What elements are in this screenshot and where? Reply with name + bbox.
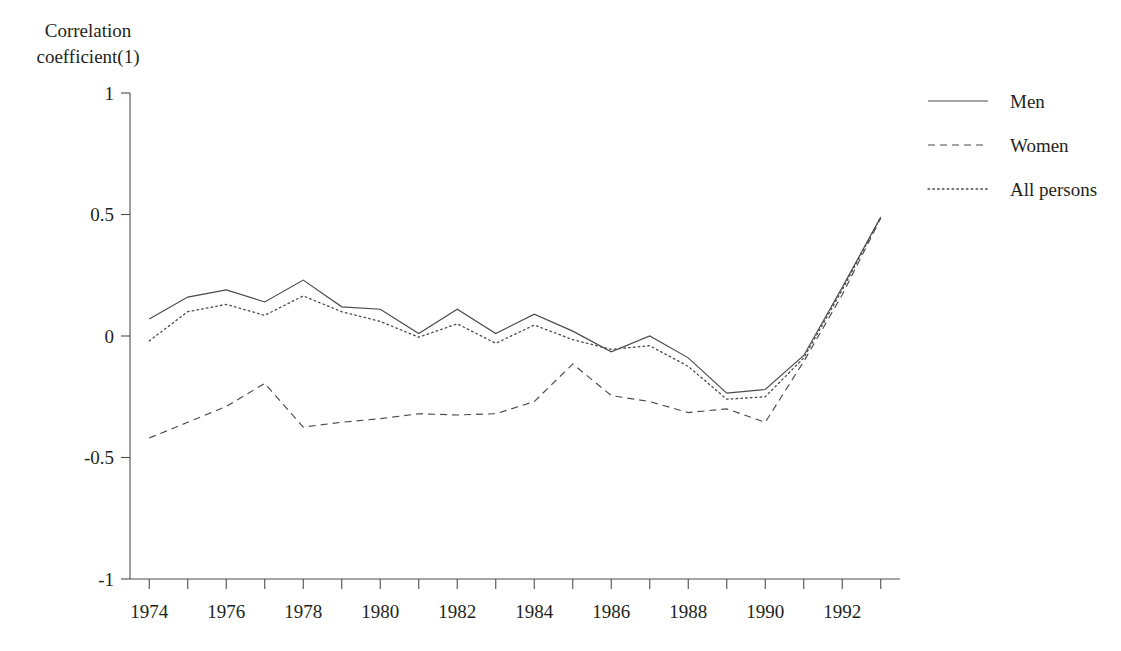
x-tick-marks: [149, 579, 881, 589]
y-tick-label: -0.5: [84, 447, 114, 468]
chart-legend: MenWomenAll persons: [928, 91, 1097, 200]
legend-label-women: Women: [1010, 135, 1069, 156]
x-tick-labels: 1974197619781980198219841986198819901992: [130, 601, 861, 622]
x-tick-label: 1980: [361, 601, 399, 622]
chart-canvas: 10.50-0.5-1 1974197619781980198219841986…: [0, 0, 1121, 651]
x-tick-label: 1986: [592, 601, 630, 622]
x-tick-label: 1984: [515, 601, 554, 622]
series-line-women: [149, 218, 881, 438]
x-tick-label: 1992: [823, 601, 861, 622]
series-line-men: [149, 217, 881, 393]
y-tick-label: -1: [98, 569, 114, 590]
legend-label-men: Men: [1010, 91, 1045, 112]
series-line-all-persons: [149, 217, 881, 399]
x-tick-label: 1988: [669, 601, 707, 622]
y-tick-label: 1: [105, 83, 115, 104]
x-tick-label: 1978: [284, 601, 322, 622]
x-tick-label: 1974: [130, 601, 169, 622]
y-tick-marks: [121, 93, 130, 579]
y-tick-label: 0: [105, 326, 115, 347]
x-tick-label: 1982: [438, 601, 476, 622]
x-tick-label: 1990: [746, 601, 784, 622]
y-tick-labels: 10.50-0.5-1: [84, 83, 114, 590]
plot-series: [149, 217, 881, 438]
y-tick-label: 0.5: [90, 204, 114, 225]
chart-axes: [130, 93, 900, 579]
legend-label-all-persons: All persons: [1010, 179, 1097, 200]
x-tick-label: 1976: [207, 601, 245, 622]
chart-figure: Correlation coefficient(1) 10.50-0.5-1 1…: [0, 0, 1121, 651]
